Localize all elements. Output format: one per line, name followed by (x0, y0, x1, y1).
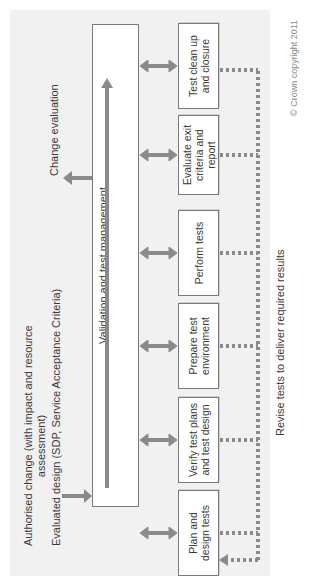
double-arrow-icon (140, 60, 177, 72)
feedback-loop (220, 70, 258, 560)
double-arrow-icon (140, 434, 177, 446)
output-arrow (63, 171, 92, 185)
input-arrow (62, 489, 92, 503)
progression-arrow (101, 78, 113, 488)
double-arrow-icon (140, 149, 177, 161)
diagram-connectors (0, 0, 309, 586)
double-arrows (140, 60, 177, 539)
feedback-arrowhead-icon (219, 554, 228, 566)
feedback-label: Revise tests to deliver required results (274, 250, 287, 436)
double-arrow-icon (140, 527, 177, 539)
double-arrow-icon (140, 340, 177, 352)
double-arrow-icon (140, 247, 177, 259)
copyright-text: © Crown copyright 2011 (288, 20, 301, 116)
diagram-canvas: Authorised change (with impact and resou… (0, 0, 309, 586)
